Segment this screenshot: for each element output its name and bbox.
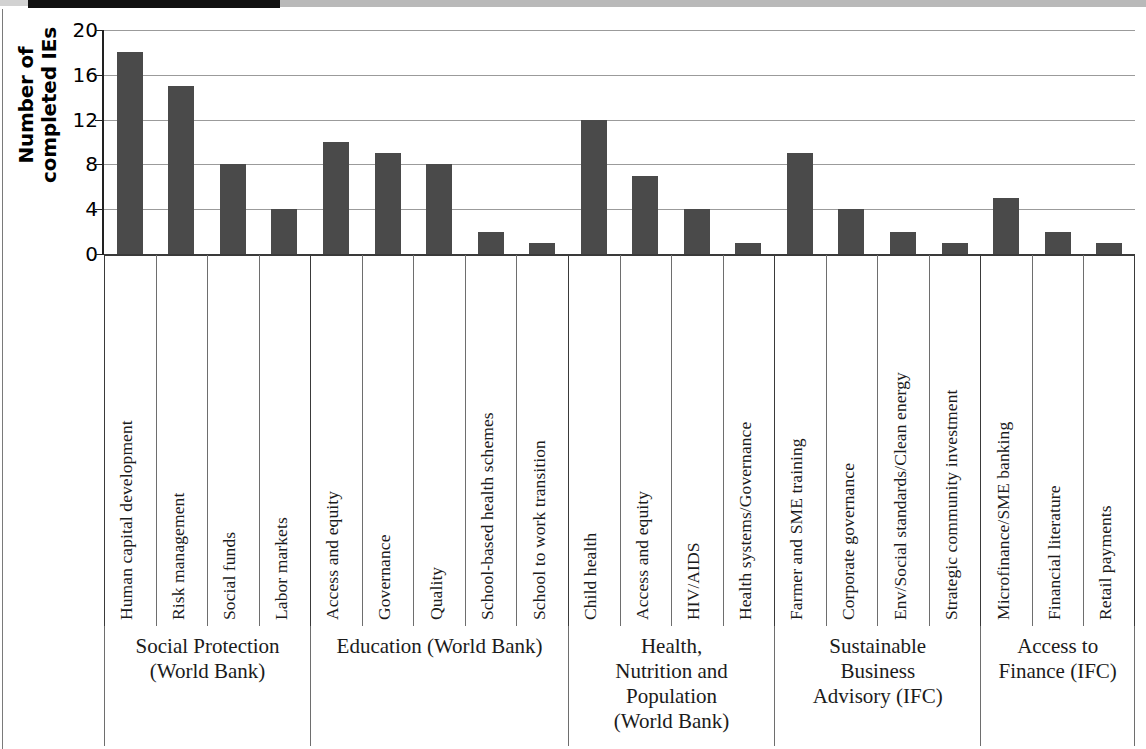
category-cell: Farmer and SME training xyxy=(774,255,826,626)
category-cell: Corporate governance xyxy=(826,255,878,626)
category-cell: Governance xyxy=(362,255,414,626)
category-label: School-based health schemes xyxy=(477,412,498,620)
bar xyxy=(942,243,968,254)
bar xyxy=(478,232,504,254)
bar xyxy=(426,164,452,254)
y-axis-tick-mark xyxy=(95,30,104,31)
group-separator xyxy=(774,255,775,626)
category-label: Retail payments xyxy=(1095,505,1116,620)
bar xyxy=(271,209,297,254)
group-separator xyxy=(568,255,569,626)
category-label: Quality xyxy=(426,567,447,620)
gridline xyxy=(104,30,1135,31)
group-band: Social Protection (World Bank)Education … xyxy=(104,626,1135,746)
category-cell: Access and equity xyxy=(310,255,362,626)
category-label: Health systems/Governance xyxy=(735,422,756,620)
category-cell: Strategic community investment xyxy=(929,255,981,626)
y-axis-tick-mark xyxy=(95,209,104,210)
group-cell: Social Protection (World Bank) xyxy=(104,626,310,746)
category-cell: School to work transition xyxy=(516,255,568,626)
category-cell: Human capital development xyxy=(104,255,156,626)
category-cell: Child health xyxy=(568,255,620,626)
group-cell: Sustainable Business Advisory (IFC) xyxy=(774,626,980,746)
category-label: Microfinance/SME banking xyxy=(993,422,1014,620)
y-axis-tick-mark xyxy=(95,75,104,76)
y-axis-tick-label: 16 xyxy=(52,63,98,87)
bar xyxy=(787,153,813,254)
category-cell: HIV/AIDS xyxy=(671,255,723,626)
bar xyxy=(581,120,607,254)
y-axis-tick-label: 4 xyxy=(52,197,98,221)
group-label: Access to Finance (IFC) xyxy=(998,634,1116,684)
category-label: Corporate governance xyxy=(838,463,859,620)
category-cell: Financial literature xyxy=(1032,255,1084,626)
group-separator xyxy=(104,255,105,626)
group-label: Sustainable Business Advisory (IFC) xyxy=(813,634,943,709)
group-label: Education (World Bank) xyxy=(337,634,543,659)
bar xyxy=(323,142,349,254)
bar xyxy=(117,52,143,254)
category-cell: Labor markets xyxy=(259,255,311,626)
group-cell: Access to Finance (IFC) xyxy=(980,626,1135,746)
category-label: Env/Social standards/Clean energy xyxy=(890,372,911,620)
bar xyxy=(529,243,555,254)
category-cell: Retail payments xyxy=(1083,255,1135,626)
plot-area xyxy=(104,30,1135,254)
bar xyxy=(1045,232,1071,254)
category-cell: School-based health schemes xyxy=(465,255,517,626)
y-axis-tick-mark xyxy=(95,120,104,121)
category-label: Social funds xyxy=(219,532,240,620)
group-cell: Health, Nutrition and Population (World … xyxy=(568,626,774,746)
scan-artifact-strip xyxy=(0,0,1146,9)
group-separator xyxy=(980,255,981,626)
bar xyxy=(838,209,864,254)
category-cell: Health systems/Governance xyxy=(723,255,775,626)
category-cell: Env/Social standards/Clean energy xyxy=(877,255,929,626)
category-label: Farmer and SME training xyxy=(786,438,807,620)
group-label: Health, Nutrition and Population (World … xyxy=(614,634,730,734)
y-axis-tick-mark xyxy=(95,254,104,255)
category-cell: Quality xyxy=(413,255,465,626)
group-separator xyxy=(1134,255,1135,626)
y-axis-tick-label: 12 xyxy=(52,108,98,132)
bar xyxy=(632,176,658,254)
gridline xyxy=(104,120,1135,121)
category-label: Human capital development xyxy=(116,420,137,620)
gridline xyxy=(104,75,1135,76)
bar xyxy=(1096,243,1122,254)
category-label: Risk management xyxy=(168,493,189,620)
category-label-grid: Human capital developmentRisk management… xyxy=(104,255,1135,626)
y-axis-tick-labels: 048121620 xyxy=(36,0,98,260)
bar xyxy=(220,164,246,254)
group-cell: Education (World Bank) xyxy=(310,626,568,746)
chart-page: Number of completed IEs 048121620 Human … xyxy=(0,0,1146,749)
category-label: Labor markets xyxy=(271,517,292,620)
group-separator xyxy=(310,255,311,626)
bar xyxy=(684,209,710,254)
category-label: HIV/AIDS xyxy=(683,542,704,620)
y-axis-tick-label: 8 xyxy=(52,152,98,176)
bar xyxy=(993,198,1019,254)
bar xyxy=(735,243,761,254)
gridline xyxy=(104,209,1135,210)
group-label: Social Protection (World Bank) xyxy=(136,634,280,684)
category-label: Child health xyxy=(580,533,601,620)
bar xyxy=(168,86,194,254)
category-label: Access and equity xyxy=(322,491,343,620)
category-label: Access and equity xyxy=(632,491,653,620)
gridline xyxy=(104,164,1135,165)
y-axis-tick-label: 20 xyxy=(52,18,98,42)
y-axis-tick-mark xyxy=(95,164,104,165)
category-cell: Social funds xyxy=(207,255,259,626)
category-cell: Access and equity xyxy=(620,255,672,626)
y-axis-tick-label: 0 xyxy=(52,242,98,266)
category-label: Financial literature xyxy=(1044,485,1065,620)
scan-artifact-gray xyxy=(280,0,1146,7)
category-cell: Risk management xyxy=(156,255,208,626)
category-label: School to work transition xyxy=(529,440,550,620)
category-label: Strategic community investment xyxy=(941,390,962,620)
bar xyxy=(375,153,401,254)
category-cell: Microfinance/SME banking xyxy=(980,255,1032,626)
bar xyxy=(890,232,916,254)
category-label: Governance xyxy=(374,534,395,620)
